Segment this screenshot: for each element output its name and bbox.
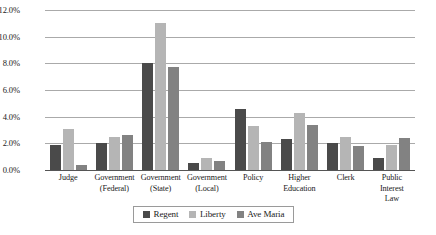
y-axis-tick-label: 0.0%	[0, 166, 20, 175]
gridline	[45, 143, 415, 144]
x-axis-tick-label: Public InterestLaw	[369, 173, 415, 205]
y-axis-tick-label: 8.0%	[0, 59, 20, 68]
chart-legend: RegentLibertyAve Maria	[133, 206, 294, 223]
gridline	[45, 10, 415, 11]
x-axis-tick-line: Government	[139, 173, 183, 184]
x-axis-tick-line: Public Interest	[370, 173, 414, 194]
x-axis-tick-line: (Local)	[185, 184, 229, 195]
x-axis-tick-label: Government(Local)	[184, 173, 230, 205]
x-axis-tick-label: Government(Federal)	[91, 173, 137, 205]
legend-swatch-icon	[237, 211, 244, 218]
legend-label: Regent	[154, 210, 179, 219]
x-axis-tick-line: Policy	[231, 173, 275, 184]
x-axis-tick-label: Policy	[230, 173, 276, 205]
legend-item[interactable]: Regent	[143, 210, 178, 219]
x-axis-tick-line: (State)	[139, 184, 183, 195]
y-axis-tick-label: 12.0%	[0, 6, 20, 15]
x-axis-tick-line: Higher	[277, 173, 321, 184]
x-axis-tick-line: (Federal)	[92, 184, 136, 195]
gridline	[45, 117, 415, 118]
x-axis-tick-line: Government	[185, 173, 229, 184]
legend-label: Liberty	[200, 210, 226, 219]
legend-item[interactable]: Ave Maria	[237, 210, 285, 219]
gridline	[45, 63, 415, 64]
legend-label: Ave Maria	[247, 210, 284, 219]
y-axis-tick-label: 2.0%	[0, 139, 20, 148]
axis-baseline	[45, 170, 415, 171]
plot-area: 12.0%10.0%8.0%6.0%4.0%2.0%0.0%	[45, 10, 415, 170]
bar-chart: 12.0%10.0%8.0%6.0%4.0%2.0%0.0% JudgeGove…	[0, 0, 436, 235]
legend-item[interactable]: Liberty	[189, 210, 225, 219]
x-axis-tick-label: HigherEducation	[276, 173, 322, 205]
gridline	[45, 37, 415, 38]
legend-swatch-icon	[143, 211, 150, 218]
x-axis-tick-line: Clerk	[324, 173, 368, 184]
x-axis-tick-line: Judge	[46, 173, 90, 184]
y-axis-tick-label: 10.0%	[0, 33, 20, 42]
x-axis-tick-line: Government	[92, 173, 136, 184]
x-axis-tick-label: Government(State)	[138, 173, 184, 205]
legend-swatch-icon	[189, 211, 196, 218]
x-axis-tick-label: Judge	[45, 173, 91, 205]
y-axis-tick-label: 4.0%	[0, 113, 20, 122]
x-axis-tick-label: Clerk	[323, 173, 369, 205]
y-axis-tick-label: 6.0%	[0, 86, 20, 95]
x-axis-tick-line: Education	[277, 184, 321, 195]
gridline	[45, 90, 415, 91]
x-axis-tick-line: Law	[370, 194, 414, 205]
x-axis-labels: JudgeGovernment(Federal)Government(State…	[45, 173, 415, 205]
